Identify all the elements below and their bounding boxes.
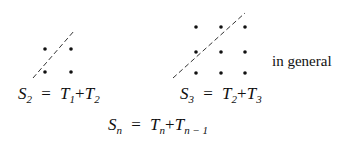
right-dot-grid — [194, 25, 247, 75]
left-dashed-divider — [33, 31, 74, 78]
formula-s3: S3 = T2+T3 — [180, 84, 262, 105]
formula-sn: Sn = Tn+Tn − 1 — [108, 115, 208, 136]
in-general-label: in general — [272, 53, 332, 70]
formula-s2: S2 = T1+T2 — [18, 84, 100, 105]
left-dot-grid — [43, 47, 73, 74]
right-dashed-divider — [173, 13, 245, 78]
